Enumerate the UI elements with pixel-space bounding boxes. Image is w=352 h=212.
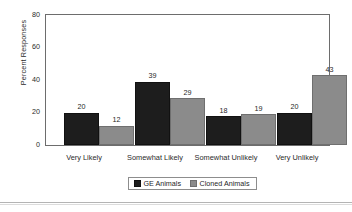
bar-cloned-very-unlikely [312, 75, 347, 145]
bar-cloned-very-likely [99, 126, 134, 146]
bar-value-ge-very-unlikely: 20 [277, 103, 312, 110]
y-tick-label-60: 60 [14, 43, 40, 50]
legend-label-ge-animals: GE Animals [144, 180, 182, 187]
legend-item-cloned-animals: Cloned Animals [190, 180, 249, 187]
footer-divider [0, 202, 352, 203]
bar-value-cloned-very-likely: 12 [99, 116, 134, 123]
x-tick-label-somewhat-likely: Somewhat Likely [115, 153, 195, 162]
footer-divider-secondary [0, 204, 352, 205]
bar-ge-somewhat-likely [135, 82, 170, 145]
x-tick-label-very-unlikely: Very Unlikely [257, 153, 337, 162]
bar-value-cloned-very-unlikely: 43 [312, 66, 347, 73]
y-tick-label-80: 80 [14, 11, 40, 18]
bar-cloned-somewhat-likely [170, 98, 205, 145]
bar-value-ge-somewhat-likely: 39 [135, 72, 170, 79]
y-tick-label-0: 0 [14, 141, 40, 148]
x-tick-label-somewhat-unlikely: Somewhat Unlikely [186, 153, 266, 162]
bar-value-cloned-somewhat-unlikely: 19 [241, 105, 276, 112]
bar-value-ge-very-likely: 20 [64, 103, 99, 110]
chart-legend: GE Animals Cloned Animals [128, 177, 257, 190]
bars-layer: 20 12 39 29 18 19 20 43 [46, 15, 329, 145]
legend-swatch-icon-ge-animals [134, 180, 141, 187]
bar-chart-figure: Percent Responses 80 60 40 20 0 20 12 39… [0, 0, 352, 212]
x-tick-label-very-likely: Very Likely [44, 153, 124, 162]
legend-swatch-icon-cloned-animals [190, 180, 197, 187]
bar-ge-very-likely [64, 113, 99, 146]
legend-item-ge-animals: GE Animals [134, 180, 181, 187]
bar-cloned-somewhat-unlikely [241, 114, 276, 145]
y-tick-label-40: 40 [14, 76, 40, 83]
bar-ge-somewhat-unlikely [206, 116, 241, 145]
bar-value-ge-somewhat-unlikely: 18 [206, 107, 241, 114]
y-tick-label-20: 20 [14, 108, 40, 115]
bar-value-cloned-somewhat-likely: 29 [170, 89, 205, 96]
legend-label-cloned-animals: Cloned Animals [200, 180, 250, 187]
bar-ge-very-unlikely [277, 113, 312, 146]
